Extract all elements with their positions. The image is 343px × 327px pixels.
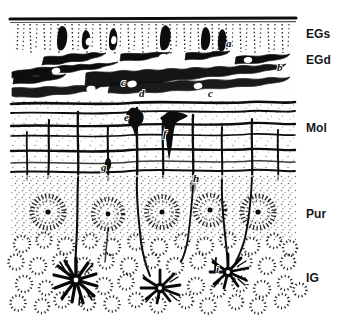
layer-label-mol: Mol — [306, 122, 327, 134]
marker-i: i — [216, 264, 219, 275]
layer-label-mol-text: Mol — [306, 121, 327, 135]
marker-f: f — [163, 128, 167, 139]
layer-label-pur-text: Pur — [306, 207, 326, 221]
layer-label-egd-text: EGd — [306, 53, 331, 67]
marker-h: h — [193, 173, 199, 184]
drawing-canvas — [0, 0, 343, 327]
layer-label-egs-text: EGs — [306, 27, 330, 41]
layer-label-egd: EGd — [306, 54, 331, 66]
marker-e: e — [124, 112, 129, 123]
marker-h-text: h — [193, 172, 199, 184]
layer-label-ig: IG — [306, 272, 319, 284]
marker-f-text: f — [163, 127, 167, 139]
marker-g: g — [101, 162, 107, 173]
marker-d: d — [139, 88, 145, 99]
marker-b-text: b — [277, 61, 283, 73]
marker-a: a — [226, 38, 232, 49]
marker-c-right-text: c — [208, 87, 213, 99]
marker-c-left: c — [121, 77, 126, 88]
histology-plate: EGs EGd Mol Pur IG a b c d c e — [0, 0, 343, 327]
marker-i-text: i — [216, 263, 219, 275]
marker-d-text: d — [139, 87, 145, 99]
layer-label-ig-text: IG — [306, 271, 319, 285]
marker-e-text: e — [124, 111, 129, 123]
layer-label-pur: Pur — [306, 208, 326, 220]
layer-label-egs: EGs — [306, 28, 330, 40]
figure-container: EGs EGd Mol Pur IG a b c d c e — [0, 0, 343, 327]
marker-b: b — [277, 62, 283, 73]
marker-c-right: c — [208, 88, 213, 99]
marker-c-left-text: c — [121, 76, 126, 88]
marker-g-text: g — [101, 161, 107, 173]
marker-a-text: a — [226, 37, 232, 49]
